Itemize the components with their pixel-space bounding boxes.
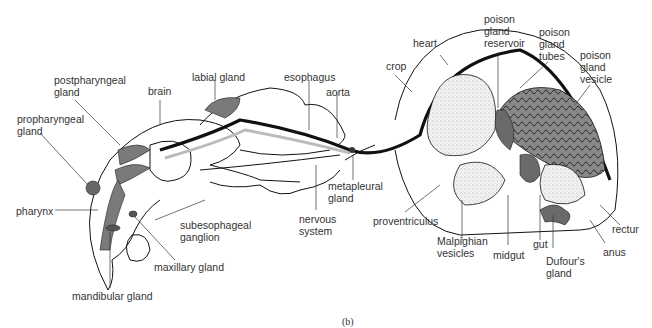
label-gut: gut bbox=[533, 238, 548, 250]
figure-caption: (b) bbox=[342, 316, 354, 327]
maxillary-gland-shape bbox=[129, 211, 137, 217]
label-proventriculus: proventriculus bbox=[373, 215, 438, 227]
label-brain: brain bbox=[148, 85, 171, 97]
label-crop: crop bbox=[386, 60, 406, 72]
label-metapleural-gland: metapleural gland bbox=[328, 180, 383, 204]
label-malpighian-vesicles: Malpighian vesicles bbox=[437, 235, 488, 259]
label-subesophageal-ganglion: subesophageal ganglion bbox=[180, 219, 251, 243]
label-propharyngeal-gland: propharyngeal gland bbox=[17, 113, 84, 137]
label-poison-gland-tubes: poison gland tubes bbox=[539, 26, 570, 62]
label-esophagus: esophagus bbox=[284, 71, 335, 83]
label-dufours-gland: Dufour's gland bbox=[546, 255, 585, 279]
label-nervous-system: nervous system bbox=[299, 213, 336, 237]
dufours-gland-shape bbox=[540, 205, 570, 225]
midgut-shape bbox=[454, 162, 505, 205]
propharyngeal-gland-shape bbox=[86, 181, 100, 195]
label-labial-gland: labial gland bbox=[192, 71, 245, 83]
metapleural-gland-shape bbox=[349, 147, 355, 153]
label-heart: heart bbox=[413, 37, 437, 49]
label-aorta: aorta bbox=[326, 86, 350, 98]
pharynx-shape bbox=[100, 180, 125, 250]
label-maxillary-gland: maxillary gland bbox=[154, 261, 224, 273]
label-poison-gland-reservoir: poison gland reservoir bbox=[484, 13, 525, 49]
label-rectum: rectur bbox=[612, 223, 639, 235]
label-poison-gland-vesicle: poison gland vesicle bbox=[580, 49, 612, 85]
label-anus: anus bbox=[603, 246, 626, 258]
crop-shape bbox=[427, 74, 496, 155]
label-midgut: midgut bbox=[493, 249, 525, 261]
postpharyngeal-gland-shape bbox=[118, 145, 150, 165]
mandibular-gland-shape bbox=[106, 225, 120, 231]
label-mandibular-gland: mandibular gland bbox=[72, 290, 153, 302]
label-pharynx: pharynx bbox=[16, 205, 53, 217]
label-postpharyngeal-gland: postpharyngeal gland bbox=[54, 74, 126, 98]
